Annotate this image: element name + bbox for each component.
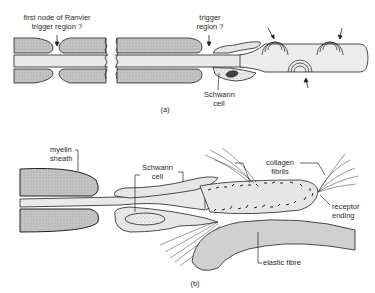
receptor-ending-b [200,180,318,214]
schwann-nucleus-b [125,213,165,225]
label-collagen-fibrils: collagen fibrils [262,159,298,176]
label-schwann-cell-b: Schwann cell [140,164,175,181]
label-receptor-ending: receptor ending [332,203,360,220]
caption-b: (b) [180,280,210,289]
label-elastic-fibre: elastic fibre [263,259,301,268]
label-myelin-sheath: myelin sheath [50,146,73,163]
myelin-sheath-b [20,168,98,196]
